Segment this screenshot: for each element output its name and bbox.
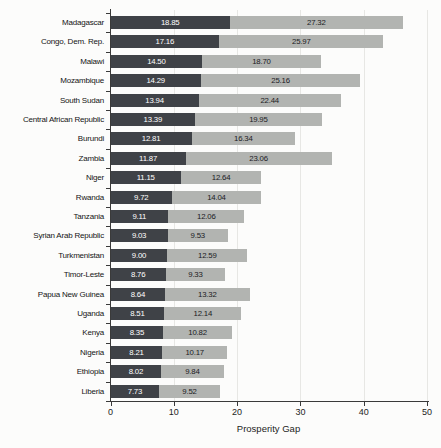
category-label: Uganda <box>0 307 104 320</box>
x-axis-tick <box>174 402 175 406</box>
category-label: South Sudan <box>0 94 104 107</box>
bar-segment-1: 14.29 <box>111 74 201 87</box>
bar-segment-1: 11.15 <box>111 171 182 184</box>
y-axis-tick <box>106 71 110 72</box>
bar-value-label: 12.64 <box>212 173 231 182</box>
bar-value-label: 13.94 <box>145 96 164 105</box>
bar-segment-1: 8.51 <box>111 307 165 320</box>
category-label: Central African Republic <box>0 113 104 126</box>
x-tick-label: 10 <box>162 407 186 417</box>
y-axis-tick <box>106 285 110 286</box>
bar-segment-1: 9.11 <box>111 210 169 223</box>
bar-segment-2: 25.16 <box>201 74 360 87</box>
bar-segment-1: 17.16 <box>111 35 220 48</box>
bar-value-label: 8.51 <box>130 309 144 318</box>
bar-segment-1: 8.02 <box>111 365 162 378</box>
bar-value-label: 9.03 <box>132 231 146 240</box>
bar-segment-1: 8.64 <box>111 288 166 301</box>
bar-value-label: 13.32 <box>198 290 217 299</box>
bar-value-label: 12.14 <box>194 309 213 318</box>
y-axis-tick <box>106 382 110 383</box>
bar-segment-2: 14.04 <box>172 191 261 204</box>
category-label: Burundi <box>0 132 104 145</box>
bar-value-label: 10.82 <box>188 328 207 337</box>
category-label: Madagascar <box>0 16 104 29</box>
gridline <box>300 10 301 401</box>
bar-value-label: 18.70 <box>252 57 271 66</box>
bar-value-label: 27.32 <box>307 18 326 27</box>
bar-value-label: 8.21 <box>129 348 143 357</box>
category-label: Zambia <box>0 152 104 165</box>
bar-value-label: 9.00 <box>132 251 146 260</box>
bar-segment-2: 9.52 <box>159 385 219 398</box>
bar-segment-2: 19.95 <box>195 113 321 126</box>
bar-value-label: 9.52 <box>182 387 196 396</box>
bar-value-label: 18.85 <box>161 18 180 27</box>
x-tick-label: 40 <box>352 407 376 417</box>
bar-value-label: 14.04 <box>207 193 226 202</box>
bar-segment-1: 8.21 <box>111 346 163 359</box>
category-label: Niger <box>0 171 104 184</box>
prosperity-gap-bar-chart: Madagascar18.8527.32Congo, Dem. Rep.17.1… <box>0 0 441 448</box>
bar-value-label: 25.97 <box>292 37 311 46</box>
y-axis-tick <box>106 207 110 208</box>
bar-value-label: 12.81 <box>142 134 161 143</box>
bar-segment-2: 9.33 <box>166 268 225 281</box>
category-label: Malawi <box>0 55 104 68</box>
y-axis-tick <box>106 149 110 150</box>
bar-segment-2: 12.06 <box>168 210 244 223</box>
bar-value-label: 9.53 <box>191 231 205 240</box>
category-label: Tanzania <box>0 210 104 223</box>
y-axis-tick <box>106 52 110 53</box>
bar-value-label: 14.50 <box>147 57 166 66</box>
category-label: Kenya <box>0 326 104 339</box>
x-tick-label: 20 <box>225 407 249 417</box>
bar-value-label: 12.06 <box>197 212 216 221</box>
bar-segment-1: 7.73 <box>111 385 160 398</box>
category-label: Papua New Guinea <box>0 288 104 301</box>
bar-segment-2: 12.59 <box>167 249 247 262</box>
x-tick-label: 50 <box>415 407 439 417</box>
bar-segment-2: 13.32 <box>165 288 249 301</box>
category-label: Nigeria <box>0 346 104 359</box>
y-axis-tick <box>106 265 110 266</box>
y-axis-tick <box>106 304 110 305</box>
y-axis-tick <box>106 32 110 33</box>
gridline <box>427 10 428 401</box>
bar-value-label: 17.16 <box>156 37 175 46</box>
bar-segment-2: 16.34 <box>192 132 295 145</box>
bar-value-label: 9.72 <box>134 193 148 202</box>
category-label: Turkmenistan <box>0 249 104 262</box>
bar-value-label: 8.76 <box>131 270 145 279</box>
x-tick-label: 0 <box>99 407 123 417</box>
bar-value-label: 7.73 <box>128 387 142 396</box>
category-label: Ethiopia <box>0 365 104 378</box>
bar-value-label: 22.44 <box>260 96 279 105</box>
bar-value-label: 10.17 <box>185 348 204 357</box>
bar-value-label: 8.02 <box>129 367 143 376</box>
bar-segment-1: 8.76 <box>111 268 166 281</box>
y-axis-line <box>110 9 111 402</box>
category-label: Rwanda <box>0 191 104 204</box>
x-axis-tick <box>237 402 238 406</box>
bar-segment-2: 9.53 <box>168 229 228 242</box>
bar-value-label: 9.84 <box>185 367 199 376</box>
y-axis-tick <box>106 323 110 324</box>
bar-segment-1: 8.35 <box>111 326 164 339</box>
bar-value-label: 12.59 <box>198 251 217 260</box>
gridline <box>237 10 238 401</box>
bar-segment-2: 22.44 <box>199 94 341 107</box>
y-axis-tick <box>106 91 110 92</box>
x-axis-tick <box>427 402 428 406</box>
y-axis-tick <box>106 13 110 14</box>
y-axis-tick <box>106 188 110 189</box>
bar-value-label: 8.35 <box>130 328 144 337</box>
bar-segment-2: 27.32 <box>230 16 403 29</box>
y-axis-tick <box>106 129 110 130</box>
bar-segment-2: 25.97 <box>219 35 383 48</box>
y-axis-tick <box>106 362 110 363</box>
x-tick-label: 30 <box>288 407 312 417</box>
x-axis-title: Prosperity Gap <box>110 423 427 434</box>
bar-value-label: 13.39 <box>144 115 163 124</box>
bar-segment-1: 9.03 <box>111 229 168 242</box>
